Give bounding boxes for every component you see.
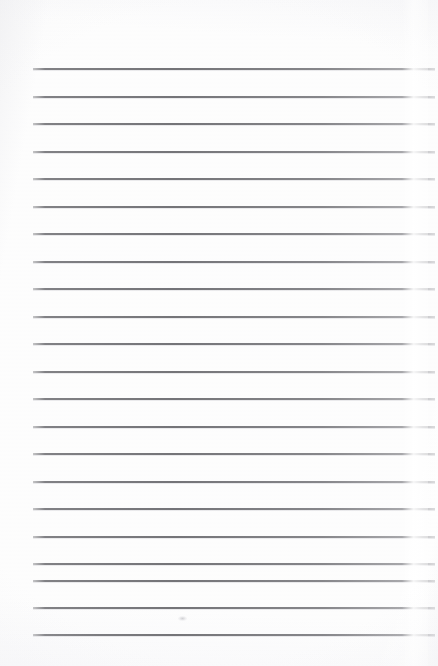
ruled-line — [33, 343, 435, 345]
ruled-line — [33, 371, 435, 373]
ruled-line — [33, 563, 435, 565]
ruled-line — [33, 288, 435, 290]
ruled-line — [33, 607, 435, 609]
ruled-line — [33, 536, 435, 538]
ruled-line — [33, 634, 435, 636]
ruled-line — [33, 206, 435, 208]
ruled-line — [33, 508, 435, 510]
scanned-page — [0, 0, 438, 666]
ruled-lines-group — [0, 0, 438, 666]
ruled-line — [33, 178, 435, 180]
ruled-line — [33, 453, 435, 455]
ruled-line — [33, 426, 435, 428]
ruled-line — [33, 580, 435, 582]
ruled-line — [33, 316, 435, 318]
ruled-line — [33, 123, 435, 125]
ruled-line — [33, 233, 435, 235]
ruled-line — [33, 151, 435, 153]
ruled-line — [33, 398, 435, 400]
ruled-line — [33, 481, 435, 483]
ruled-line — [33, 68, 435, 70]
ruled-line — [33, 261, 435, 263]
ruled-line — [33, 96, 435, 98]
